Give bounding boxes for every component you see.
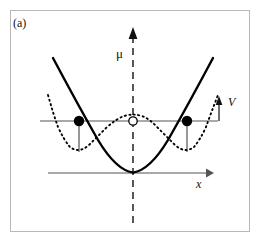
v-axis-label: V xyxy=(228,96,235,108)
unstable-state-center-marker xyxy=(129,117,137,125)
stable-state-right-marker xyxy=(182,116,192,126)
mu-axis-label: μ xyxy=(116,47,123,60)
stable-state-left-marker xyxy=(74,116,84,126)
x-axis-label: x xyxy=(196,178,201,190)
figure-panel-a: (a) μ V x xyxy=(0,0,263,245)
potential-energy-diagram xyxy=(0,0,263,245)
panel-label: (a) xyxy=(13,17,26,29)
